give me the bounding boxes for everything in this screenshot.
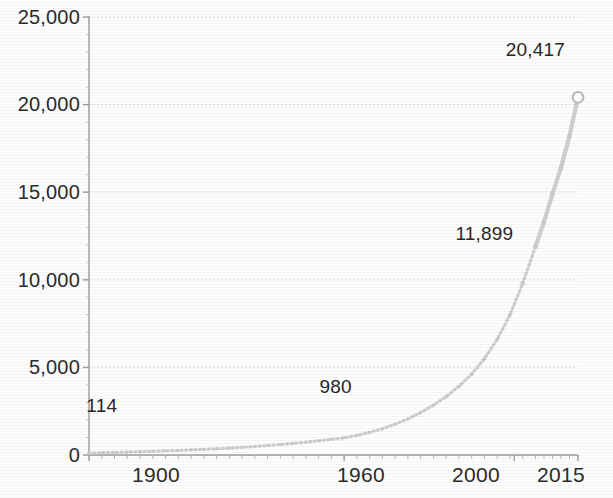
data-point-label: 20,417 [506,39,565,61]
gridlines [89,17,578,367]
data-point-label: 114 [86,395,117,417]
chart-container: 25,000 20,000 15,000 10,000 5,000 0 1900… [0,0,613,498]
y-axis-ticks [83,17,89,455]
x-axis-ticks [89,455,578,461]
data-point-label: 11,899 [455,223,513,245]
plot-area [0,0,613,498]
data-series [88,92,584,455]
data-point-label: 980 [319,376,351,398]
